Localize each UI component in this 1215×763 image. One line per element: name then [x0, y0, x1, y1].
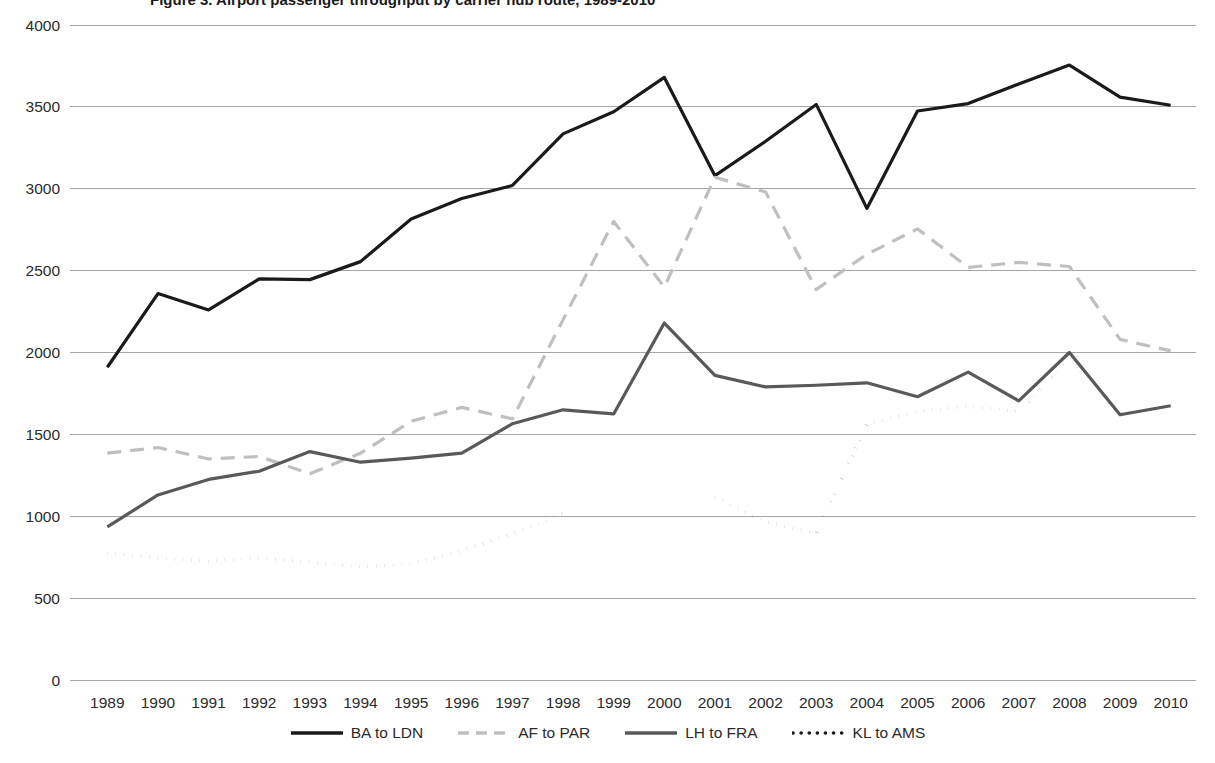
- x-axis-tick-label: 2004: [850, 694, 885, 711]
- chart-page: Figure 3. Airport passenger throughput b…: [0, 0, 1215, 763]
- plot-area: 05001000150020002500300035004000 1989199…: [0, 0, 1215, 763]
- x-axis-tick-label: 1998: [546, 694, 580, 711]
- legend-label: BA to LDN: [351, 724, 423, 742]
- legend-swatch-dotted-black: [792, 726, 846, 740]
- chart-legend: BA to LDNAF to PARLH to FRAKL to AMS: [0, 724, 1215, 742]
- legend-item-kl-to-ams[interactable]: KL to AMS: [792, 724, 926, 742]
- y-axis-tick-label: 4000: [26, 17, 61, 34]
- x-axis-tick-label: 1994: [343, 694, 378, 711]
- y-axis-tick-label: 2500: [26, 262, 61, 279]
- x-axis-tick-label: 1999: [596, 694, 630, 711]
- legend-item-lh-to-fra[interactable]: LH to FRA: [624, 724, 757, 742]
- legend-swatch-solid-gray: [624, 726, 678, 740]
- legend-swatch-dashed-gray: [457, 726, 511, 740]
- x-axis-tick-label: 2009: [1103, 694, 1137, 711]
- y-axis-tick-label: 3500: [26, 98, 61, 115]
- legend-item-ba-to-ldn[interactable]: BA to LDN: [290, 724, 423, 742]
- data-series-group: [107, 65, 1170, 567]
- legend-label: AF to PAR: [518, 724, 590, 742]
- y-axis-tick-label: 500: [34, 590, 60, 607]
- y-axis-tick-label: 0: [51, 672, 60, 689]
- x-axis-tick-label: 2000: [647, 694, 682, 711]
- y-axis-tick-label: 1000: [26, 508, 61, 525]
- x-axis-tick-label: 1997: [495, 694, 529, 711]
- x-axis-tick-label: 1990: [141, 694, 176, 711]
- x-axis-tick-label: 1995: [394, 694, 428, 711]
- y-axis-tick-label: 2000: [26, 344, 61, 361]
- gridlines-group: [70, 25, 1196, 680]
- legend-item-af-to-par[interactable]: AF to PAR: [457, 724, 590, 742]
- y-axis-tick-label: 1500: [26, 426, 61, 443]
- x-axis-tick-label: 1991: [191, 694, 225, 711]
- x-axis-tick-label: 2010: [1153, 694, 1188, 711]
- x-axis-tick-label: 2005: [900, 694, 934, 711]
- x-axis-tick-label: 1992: [242, 694, 276, 711]
- series-line-af-to-par: [107, 177, 1170, 473]
- x-axis-tick-label: 2007: [1002, 694, 1036, 711]
- x-axis-tick-label: 2001: [698, 694, 732, 711]
- legend-label: KL to AMS: [853, 724, 926, 742]
- x-axis-tick-label: 2003: [799, 694, 833, 711]
- x-axis-tick-label: 1993: [293, 694, 327, 711]
- x-axis-tick-label: 1989: [90, 694, 124, 711]
- legend-label: LH to FRA: [685, 724, 757, 742]
- x-axis-tick-label: 2006: [951, 694, 985, 711]
- legend-swatch-solid-black: [290, 726, 344, 740]
- series-line-kl-to-ams: [107, 513, 563, 567]
- series-line-ba-to-ldn: [107, 65, 1170, 367]
- y-axis-ticks-group: 05001000150020002500300035004000: [26, 17, 61, 689]
- x-axis-tick-label: 1996: [445, 694, 479, 711]
- series-line-lh-to-fra: [107, 323, 1170, 527]
- line-chart-svg: 05001000150020002500300035004000 1989199…: [0, 0, 1215, 763]
- x-axis-tick-label: 2002: [748, 694, 782, 711]
- x-axis-tick-label: 2008: [1052, 694, 1086, 711]
- x-axis-ticks-group: 1989199019911992199319941995199619971998…: [90, 694, 1188, 711]
- y-axis-tick-label: 3000: [26, 180, 61, 197]
